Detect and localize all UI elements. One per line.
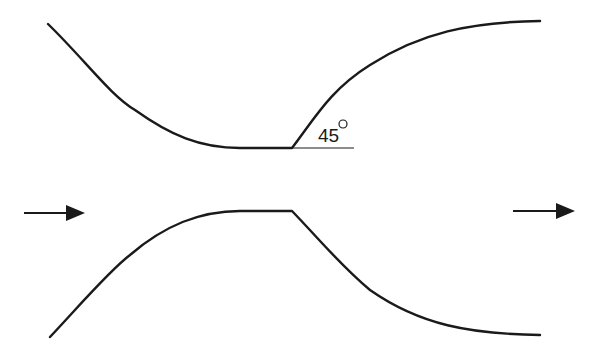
outlet-flow-arrow-icon: [513, 203, 575, 219]
lower-wall: [50, 211, 540, 337]
inlet-flow-arrow-icon: [24, 205, 85, 221]
angle-label: 45: [318, 125, 339, 146]
degree-symbol-icon: [339, 120, 347, 128]
upper-wall: [48, 21, 540, 148]
nozzle-diagram: 45: [0, 0, 608, 357]
